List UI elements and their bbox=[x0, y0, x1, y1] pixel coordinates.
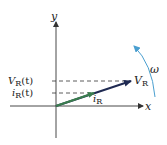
y-axis-label: y bbox=[50, 10, 58, 23]
phasor-diagram: y x VR(t) iR(t) VR iR ω bbox=[0, 0, 167, 145]
vr-phasor-label: VR bbox=[134, 74, 149, 88]
x-axis-label: x bbox=[145, 100, 152, 113]
ir-phasor-label: iR bbox=[93, 93, 103, 106]
ir-t-label: iR(t) bbox=[12, 87, 33, 100]
omega-label: ω bbox=[150, 63, 159, 76]
ir-phasor-arrow bbox=[56, 93, 94, 106]
phasor-diagram-svg: y x VR(t) iR(t) VR iR ω bbox=[0, 0, 167, 145]
